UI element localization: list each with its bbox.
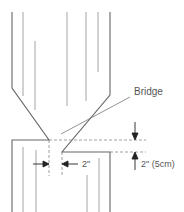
- bridge-cut-diagram: Bridge 2" 2" (5cm): [0, 0, 184, 212]
- vertical-gap-arrows: [132, 122, 138, 170]
- dimension-guides: [49, 140, 146, 176]
- horizontal-gap-label: 2": [82, 159, 90, 169]
- vertical-gap-label: 2" (5cm): [141, 159, 175, 169]
- horizontal-gap-arrows: [33, 161, 78, 167]
- diagram-drawing: [0, 0, 184, 212]
- board-outlines: [12, 12, 110, 212]
- bridge-leader-line: [61, 97, 130, 134]
- wood-grain-lines: [23, 12, 99, 212]
- bridge-label: Bridge: [134, 86, 163, 97]
